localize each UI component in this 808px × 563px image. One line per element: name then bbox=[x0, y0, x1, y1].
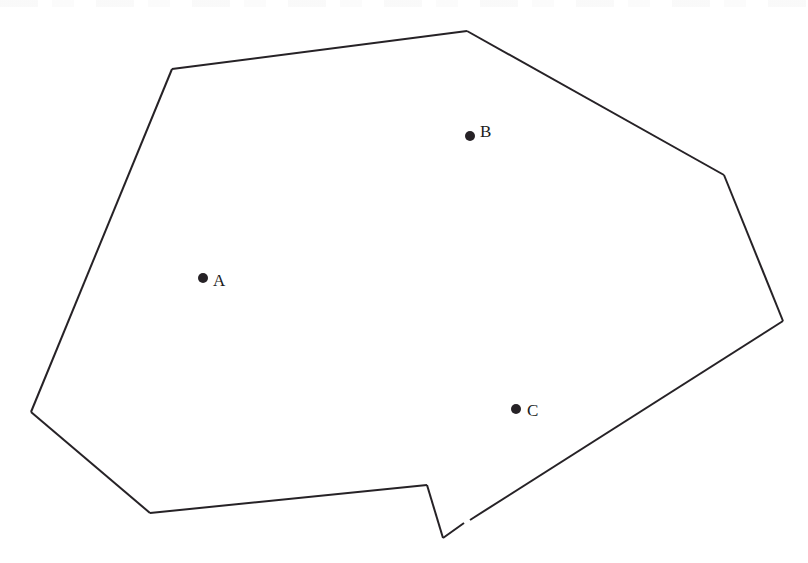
point-a-dot-icon bbox=[198, 273, 208, 283]
point-c: C bbox=[511, 401, 538, 420]
polygon-edge-notch-gap-to-notch-bottom bbox=[443, 523, 464, 538]
polygon-edge-notch-bottom-to-notch-top bbox=[427, 485, 443, 538]
point-b-dot-icon bbox=[465, 131, 475, 141]
polygon-edge-bottom-left-to-left-apex bbox=[31, 412, 150, 513]
point-b-label: B bbox=[480, 122, 491, 141]
polygon-drawing: ABC bbox=[0, 0, 808, 563]
point-c-label: C bbox=[527, 401, 538, 420]
polygon-edge-upper-left-to-top-peak bbox=[172, 31, 467, 69]
point-b: B bbox=[465, 122, 491, 141]
polygon-edge-right-apex-to-notch-gap bbox=[470, 321, 783, 520]
point-a: A bbox=[198, 271, 226, 290]
point-c-dot-icon bbox=[511, 404, 521, 414]
polygon-edge-upper-right-to-right-apex bbox=[724, 175, 783, 321]
polygon-edge-top-peak-to-upper-right bbox=[467, 31, 724, 175]
figure-canvas: ABC bbox=[0, 0, 808, 563]
polygon-edge-left-apex-to-upper-left bbox=[31, 69, 172, 412]
labeled-points-group: ABC bbox=[198, 122, 538, 420]
polygon-outline bbox=[31, 31, 783, 538]
polygon-edge-notch-top-to-bottom-left bbox=[150, 485, 427, 513]
point-a-label: A bbox=[213, 271, 226, 290]
